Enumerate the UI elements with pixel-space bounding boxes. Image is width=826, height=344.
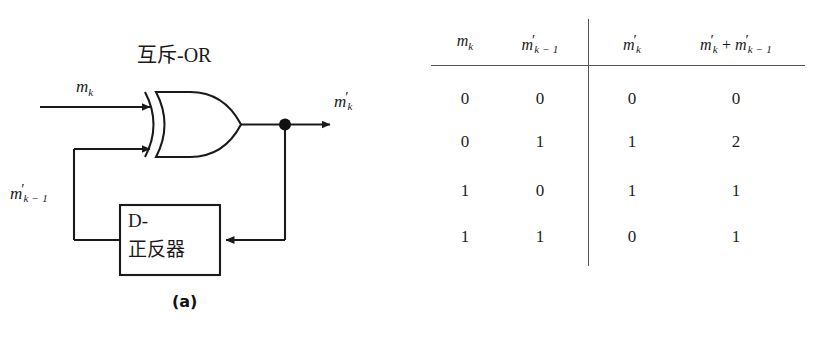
table-cell: 0: [497, 181, 583, 201]
truth-table-panel: mk m′k − 1 m′k m′k + m′k − 1 0 0 0 0 0 1…: [413, 0, 826, 344]
signal-label-input-top: mk: [76, 78, 93, 98]
table-header-mk-prev: m′k − 1: [497, 33, 583, 55]
table-cell: 1: [427, 227, 503, 247]
signal-label-input-bottom: m′k − 1: [10, 182, 48, 204]
signal-base: m: [76, 77, 88, 96]
signal-subscript: k: [88, 86, 93, 98]
header-subscript: k: [636, 43, 641, 55]
figure-page: 互斥-OR D- 正反器 mk m′k m′k − 1 (a) mk m′k −…: [0, 0, 826, 344]
header-base: m: [623, 36, 635, 53]
table-vertical-divider: [588, 19, 589, 266]
d-flipflop-label-line2: 正反器: [128, 235, 220, 264]
table-header-mk-out: m′k: [593, 33, 671, 55]
table-cell: 0: [593, 227, 671, 247]
header-operator: +: [718, 36, 735, 53]
header-subscript2: k − 1: [748, 43, 772, 55]
table-cell: 0: [427, 89, 503, 109]
table-header-rule: [431, 65, 805, 66]
signal-label-output: m′k: [334, 90, 353, 112]
table-cell: 0: [667, 89, 805, 109]
junction-dot: [279, 119, 291, 131]
caption-panel-a: (a): [172, 292, 197, 311]
signal-subscript: k − 1: [24, 192, 48, 204]
header-subscript: k: [468, 40, 473, 52]
circuit-diagram-panel: 互斥-OR D- 正反器 mk m′k m′k − 1 (a): [0, 0, 413, 344]
table-cell: 1: [667, 181, 805, 201]
header-base: m: [700, 36, 712, 53]
table-cell: 1: [497, 132, 583, 152]
signal-subscript: k: [348, 100, 353, 112]
table-cell: 1: [593, 181, 671, 201]
table-header-mk: mk: [427, 33, 503, 52]
table-cell: 2: [667, 132, 805, 152]
xor-gate-body: [156, 92, 241, 157]
table-cell: 1: [667, 227, 805, 247]
table-cell: 1: [427, 181, 503, 201]
table-cell: 0: [427, 132, 503, 152]
table-cell: 1: [497, 227, 583, 247]
table-cell: 1: [593, 132, 671, 152]
table-cell: 0: [497, 89, 583, 109]
header-subscript: k − 1: [534, 43, 558, 55]
table-header-sum: m′k + m′k − 1: [667, 33, 805, 55]
d-flipflop-label-line1: D-: [128, 206, 220, 235]
d-flipflop-label: D- 正反器: [128, 206, 220, 265]
table-cell: 0: [593, 89, 671, 109]
xor-gate-arc: [145, 92, 154, 157]
header-base: m: [457, 32, 469, 49]
xor-gate-label: 互斥-OR: [137, 39, 211, 68]
